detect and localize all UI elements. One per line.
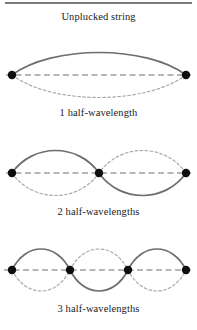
panel-2-caption: 2 half-wavelengths (0, 205, 197, 218)
node-dot (8, 169, 16, 177)
node-dot (182, 71, 190, 79)
unplucked-string-label: Unplucked string (0, 10, 197, 23)
displacement-positive-curve-1 (12, 53, 186, 76)
top-divider-rule (5, 2, 192, 4)
node-dot (66, 266, 74, 274)
wave-panel-1 (0, 42, 197, 104)
panel-1-caption: 1 half-wavelength (0, 106, 197, 119)
node-dot (124, 266, 132, 274)
wave-panel-3 (0, 240, 197, 300)
wave-svg-3 (0, 240, 197, 300)
wave-svg-1 (0, 42, 197, 104)
node-dot (182, 266, 190, 274)
panel-3-caption: 3 half-wavelengths (0, 302, 197, 315)
node-dot (182, 169, 190, 177)
node-dot (95, 169, 103, 177)
wave-panel-2 (0, 142, 197, 204)
displacement-negative-curve-1 (12, 75, 186, 98)
node-dot (8, 266, 16, 274)
node-dot (8, 71, 16, 79)
wave-svg-2 (0, 142, 197, 204)
standing-wave-figure: Unplucked string 1 half-wavelength 2 hal… (0, 0, 197, 330)
